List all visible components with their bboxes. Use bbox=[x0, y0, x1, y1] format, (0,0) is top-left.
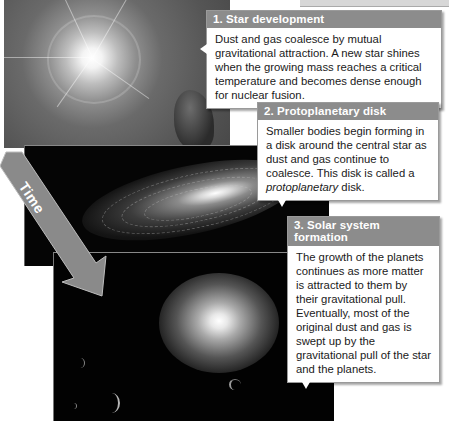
callout-text: Dust and gas coalesce by mutual gravitat… bbox=[207, 28, 441, 108]
callout-text-part: disk. bbox=[338, 181, 364, 193]
callout-solar-system-formation: 3. Solar system formation The growth of … bbox=[287, 216, 440, 383]
callout-pointer bbox=[302, 382, 310, 389]
callout-pointer bbox=[200, 44, 207, 54]
callout-text: The growth of the planets continues as m… bbox=[288, 246, 439, 382]
callout-star-development: 1. Star development Dust and gas coalesc… bbox=[206, 10, 442, 109]
callout-title: 2. Protoplanetary disk bbox=[258, 103, 438, 120]
callout-protoplanetary-disk: 2. Protoplanetary disk Smaller bodies be… bbox=[257, 102, 439, 201]
callout-pointer bbox=[278, 200, 286, 207]
callout-text-part: Smaller bodies begin forming in a disk a… bbox=[266, 125, 427, 179]
callout-text: Smaller bodies begin forming in a disk a… bbox=[258, 120, 438, 200]
callout-title: 3. Solar system formation bbox=[288, 217, 439, 246]
callout-text-italic: protoplanetary bbox=[266, 181, 338, 193]
callout-title: 1. Star development bbox=[207, 11, 441, 28]
